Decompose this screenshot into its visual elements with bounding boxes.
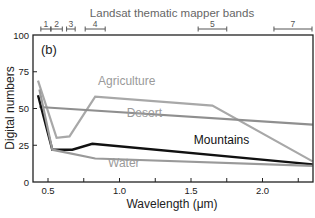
panel-label: (b) <box>41 42 57 57</box>
y-axis-label: Digital numbers <box>3 66 17 149</box>
band-label: 3 <box>69 19 74 29</box>
band-1: 1 <box>41 19 51 32</box>
label-mountains: Mountains <box>194 133 249 147</box>
label-agriculture: Agriculture <box>98 74 156 88</box>
chart: 123457 Landsat thematic mapper bands 025… <box>0 0 315 218</box>
band-3: 3 <box>67 19 76 32</box>
y-tick-label: 50 <box>18 103 29 114</box>
band-label: 4 <box>93 19 98 29</box>
band-7: 7 <box>274 19 312 32</box>
band-label: 7 <box>291 19 296 29</box>
band-5: 5 <box>198 19 227 32</box>
x-tick-label: 0.5 <box>41 185 54 196</box>
band-4: 4 <box>85 19 105 32</box>
x-tick-label: 1.5 <box>184 185 197 196</box>
line-desert <box>39 107 312 125</box>
x-tick-label: 1.0 <box>113 185 126 196</box>
label-water: Water <box>108 156 140 170</box>
y-tick-label: 25 <box>18 140 29 151</box>
line-mountains <box>38 95 313 164</box>
y-tick-label: 0 <box>24 177 29 188</box>
x-axis-ticks: 0.51.01.52.0 <box>41 178 298 196</box>
y-tick-label: 100 <box>13 30 29 41</box>
band-label: 1 <box>43 19 48 29</box>
band-2: 2 <box>51 19 62 32</box>
x-tick-label: 2.0 <box>256 185 269 196</box>
band-label: 2 <box>54 19 59 29</box>
landsat-band-bars: 123457 <box>41 19 312 32</box>
x-axis-label: Wavelength (μm) <box>126 197 217 211</box>
band-label: 5 <box>210 19 215 29</box>
label-desert: Desert <box>127 106 163 120</box>
y-tick-label: 75 <box>18 66 29 77</box>
line-water <box>39 89 312 165</box>
chart-title: Landsat thematic mapper bands <box>90 7 255 19</box>
series-lines <box>38 81 313 166</box>
